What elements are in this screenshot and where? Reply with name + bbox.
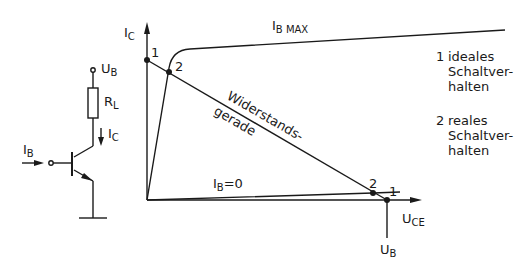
legend-text-line: halten bbox=[448, 79, 513, 94]
y-axis-arrow-icon bbox=[144, 22, 150, 34]
legend-text-line: Schaltver- bbox=[448, 128, 513, 143]
collector-current-label: IC bbox=[108, 127, 119, 143]
legend-item-ideal: 1 ideales Schaltver- halten bbox=[436, 49, 513, 94]
resistor-label: RL bbox=[104, 95, 119, 111]
legend-text-line: Schaltver- bbox=[448, 64, 513, 79]
curve-ib-max-label: IB MAX bbox=[272, 19, 308, 35]
point-upper-real bbox=[166, 69, 172, 75]
base-current-label: IB bbox=[23, 143, 34, 159]
supply-label: UB bbox=[101, 62, 117, 78]
legend-number: 2 bbox=[436, 113, 444, 128]
curve-ib-zero bbox=[147, 192, 400, 200]
legend-text-line: ideales bbox=[448, 49, 513, 64]
point-upper-ideal-label: 1 bbox=[151, 46, 159, 59]
collector-current-arrow-icon bbox=[98, 137, 104, 146]
load-resistor bbox=[88, 88, 98, 118]
supply-terminal bbox=[91, 68, 95, 72]
x-axis-arrow-icon bbox=[410, 197, 422, 203]
legend-item-real: 2 reales Schaltver- halten bbox=[436, 113, 513, 158]
point-lower-ideal-label: 1 bbox=[389, 185, 397, 198]
point-upper-real-label: 2 bbox=[175, 60, 183, 73]
legend-text-line: reales bbox=[448, 113, 513, 128]
x-axis-label: UCE bbox=[402, 212, 425, 228]
y-axis-label: IC bbox=[124, 26, 135, 42]
ub-marker-label: UB bbox=[380, 243, 396, 259]
legend-number: 1 bbox=[436, 49, 444, 64]
curve-ib-zero-label: IB=0 bbox=[213, 177, 243, 193]
point-upper-ideal bbox=[144, 57, 150, 63]
legend-text-line: halten bbox=[448, 143, 513, 158]
load-line bbox=[147, 60, 387, 200]
base-terminal bbox=[49, 161, 53, 165]
base-current-arrow-icon bbox=[34, 160, 44, 166]
transistor-circuit bbox=[22, 68, 107, 218]
point-lower-real-label: 2 bbox=[369, 177, 377, 190]
emitter-arrow-icon bbox=[81, 173, 93, 181]
